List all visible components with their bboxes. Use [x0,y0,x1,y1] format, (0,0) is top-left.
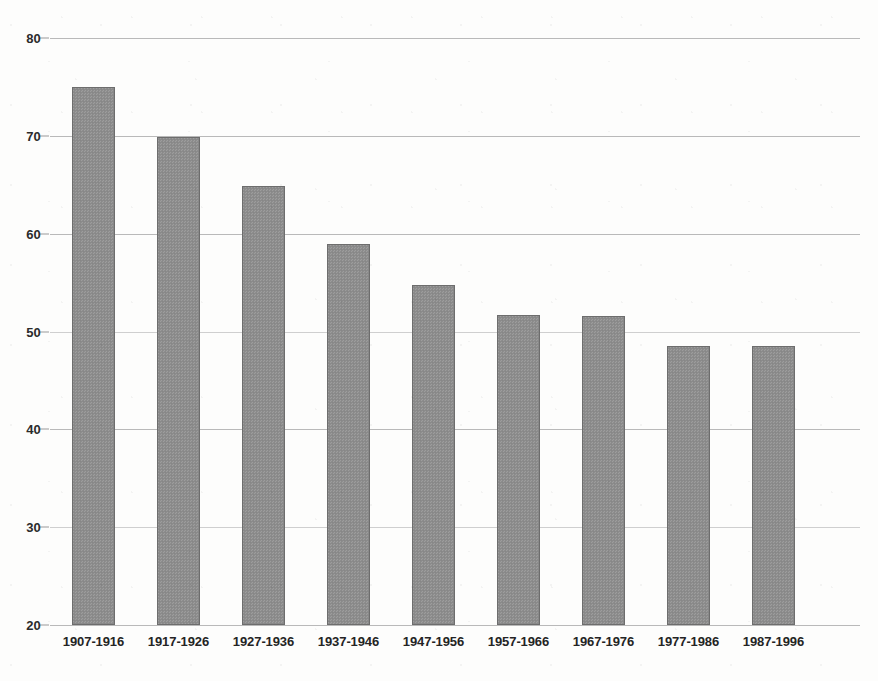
ytick-dash-70 [40,135,49,136]
xtick-label-1977-1986: 1977-1986 [658,634,719,649]
bar-1957-1966[interactable]: 1957-1966 [497,315,540,625]
ytick-dash-80 [40,38,49,39]
ytick-label-70: 70 [26,128,41,143]
xtick-label-1907-1916: 1907-1916 [63,634,124,649]
xtick-label-1937-1946: 1937-1946 [318,634,379,649]
bar-1907-1916[interactable]: 1907-1916 [72,87,115,625]
bar-1947-1956[interactable]: 1947-1956 [412,285,455,625]
bar-1927-1936[interactable]: 1927-1936 [242,186,285,625]
bar-1977-1986[interactable]: 1977-1986 [667,346,710,625]
bar-1937-1946[interactable]: 1937-1946 [327,244,370,625]
xtick-label-1927-1936: 1927-1936 [233,634,294,649]
chart-page: 80 70 60 50 40 30 20 1907-1916 [0,0,878,681]
xtick-label-1987-1996: 1987-1996 [743,634,804,649]
ytick-label-80: 80 [26,31,41,46]
xtick-label-1967-1976: 1967-1976 [573,634,634,649]
gridline-20-baseline: 20 [50,625,860,626]
ytick-dash-50 [40,331,49,332]
ytick-label-30: 30 [26,520,41,535]
ytick-dash-30 [40,527,49,528]
ytick-label-40: 40 [26,422,41,437]
ytick-label-50: 50 [26,324,41,339]
xtick-label-1947-1956: 1947-1956 [403,634,464,649]
ytick-label-20: 20 [26,618,41,633]
ytick-dash-40 [40,429,49,430]
ytick-dash-20 [40,625,49,626]
gridline-80: 80 [50,38,860,39]
ytick-dash-60 [40,233,49,234]
ytick-label-60: 60 [26,226,41,241]
bar-1987-1996[interactable]: 1987-1996 [752,346,795,625]
bar-1917-1926[interactable]: 1917-1926 [157,137,200,625]
xtick-label-1917-1926: 1917-1926 [148,634,209,649]
plot-area: 80 70 60 50 40 30 20 1907-1916 [50,38,860,625]
xtick-label-1957-1966: 1957-1966 [488,634,549,649]
bar-1967-1976[interactable]: 1967-1976 [582,316,625,625]
